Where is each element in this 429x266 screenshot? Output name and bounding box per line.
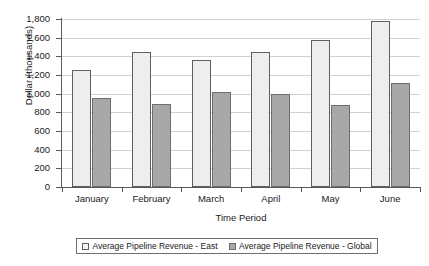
legend-swatch-icon bbox=[82, 243, 89, 250]
y-axis-tick-label: 1,400 bbox=[0, 51, 50, 61]
bar-group bbox=[251, 19, 290, 187]
gridline bbox=[62, 56, 420, 57]
gridline bbox=[62, 150, 420, 151]
y-axis-tick-mark bbox=[56, 187, 61, 188]
bar-group bbox=[371, 19, 410, 187]
bar-global[interactable] bbox=[212, 92, 231, 187]
y-axis-tick-mark bbox=[56, 150, 61, 151]
legend-item-label: Average Pipeline Revenue - Global bbox=[239, 241, 372, 251]
y-axis-tick-label: 1,200 bbox=[0, 70, 50, 80]
x-axis-tick-mark bbox=[62, 188, 63, 192]
y-axis-tick-label: 1,000 bbox=[0, 89, 50, 99]
bar-east[interactable] bbox=[192, 60, 211, 187]
bar-group bbox=[192, 19, 231, 187]
gridline bbox=[62, 94, 420, 95]
x-axis-tick-label: January bbox=[62, 193, 122, 205]
gridline bbox=[62, 19, 420, 20]
x-axis-title: Time Period bbox=[62, 212, 420, 223]
x-axis-tick-label: March bbox=[181, 193, 241, 205]
bar-global[interactable] bbox=[152, 104, 171, 187]
x-axis-tick-labels: JanuaryFebruaryMarchAprilMayJune bbox=[62, 193, 420, 209]
gridline bbox=[62, 168, 420, 169]
gridline bbox=[62, 131, 420, 132]
y-axis-tick-label: 200 bbox=[0, 163, 50, 173]
y-axis-tick-mark bbox=[56, 112, 61, 113]
legend-item[interactable]: Average Pipeline Revenue - East bbox=[82, 241, 218, 251]
bar-group bbox=[72, 19, 111, 187]
y-axis-tick-mark bbox=[56, 56, 61, 57]
bar-group bbox=[132, 19, 171, 187]
bar-global[interactable] bbox=[391, 83, 410, 187]
x-axis-tick-mark bbox=[122, 188, 123, 192]
y-axis-tick-label: 600 bbox=[0, 126, 50, 136]
y-axis-tick-mark bbox=[56, 38, 61, 39]
y-axis-tick-label: 0 bbox=[0, 182, 50, 192]
gridline bbox=[62, 38, 420, 39]
y-axis-tick-mark bbox=[56, 94, 61, 95]
x-axis-tick-label: April bbox=[241, 193, 301, 205]
y-axis-tick-label: 400 bbox=[0, 145, 50, 155]
y-axis-tick-label: 1,800 bbox=[0, 14, 50, 24]
gridline bbox=[62, 75, 420, 76]
x-axis-tick-label: February bbox=[122, 193, 182, 205]
bar-east[interactable] bbox=[132, 52, 151, 187]
bar-group bbox=[311, 19, 350, 187]
bar-global[interactable] bbox=[92, 98, 111, 187]
x-axis-tick-mark bbox=[420, 188, 421, 192]
x-axis-tick-mark bbox=[241, 188, 242, 192]
gridline bbox=[62, 112, 420, 113]
x-axis-tick-label: June bbox=[360, 193, 420, 205]
bar-east[interactable] bbox=[251, 52, 270, 187]
y-axis-tick-mark bbox=[56, 75, 61, 76]
y-axis-tick-mark bbox=[56, 131, 61, 132]
legend-item[interactable]: Average Pipeline Revenue - Global bbox=[229, 241, 372, 251]
legend-item-label: Average Pipeline Revenue - East bbox=[93, 241, 218, 251]
y-axis-tick-mark bbox=[56, 168, 61, 169]
x-axis-tick-mark bbox=[181, 188, 182, 192]
y-axis-tick-labels: 02004006008001,0001,2001,4001,6001,800 bbox=[0, 0, 58, 266]
bar-east[interactable] bbox=[72, 70, 91, 187]
y-axis-tick-label: 800 bbox=[0, 107, 50, 117]
bar-global[interactable] bbox=[271, 94, 290, 187]
chart-legend: Average Pipeline Revenue - EastAverage P… bbox=[76, 238, 378, 254]
y-axis-tick-mark bbox=[56, 19, 61, 20]
x-axis-tick-label: May bbox=[301, 193, 361, 205]
bar-chart: Dollar (thousands) 02004006008001,0001,2… bbox=[0, 0, 429, 266]
bar-east[interactable] bbox=[311, 40, 330, 187]
legend-swatch-icon bbox=[229, 243, 236, 250]
x-axis-tick-mark bbox=[301, 188, 302, 192]
x-axis-tick-mark bbox=[360, 188, 361, 192]
y-axis-tick-label: 1,600 bbox=[0, 33, 50, 43]
plot-area bbox=[62, 19, 420, 187]
bar-east[interactable] bbox=[371, 21, 390, 187]
bar-global[interactable] bbox=[331, 105, 350, 187]
